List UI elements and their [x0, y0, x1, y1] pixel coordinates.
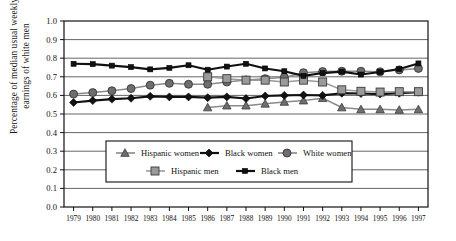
y-tick-label: 0.8	[46, 53, 57, 63]
data-point	[185, 80, 193, 88]
data-point	[204, 80, 212, 88]
y-axis-ticks: 0.00.10.20.30.40.50.60.70.80.91.0	[46, 16, 64, 212]
x-tick-label: 1996	[392, 214, 407, 223]
data-point	[376, 88, 384, 96]
data-point	[282, 69, 287, 74]
data-point	[71, 61, 76, 66]
x-tick-label: 1981	[105, 214, 120, 223]
x-tick-label: 1984	[162, 214, 177, 223]
legend-item-white-women[interactable]: White women	[278, 148, 352, 158]
data-point	[70, 98, 78, 106]
data-point	[127, 85, 135, 93]
data-point	[89, 89, 97, 97]
data-point	[416, 61, 421, 66]
data-point	[338, 86, 346, 94]
data-point	[339, 69, 344, 74]
data-point	[167, 65, 172, 70]
legend-item-hispanic-men[interactable]: Hispanic men	[146, 166, 219, 176]
x-tick-label: 1997	[411, 214, 426, 223]
x-tick-label: 1979	[66, 214, 81, 223]
data-point	[299, 91, 307, 99]
series-line	[208, 77, 419, 92]
data-point	[414, 88, 422, 96]
legend-marker	[151, 167, 159, 175]
data-point	[205, 67, 210, 72]
legend-label: White women	[303, 148, 352, 158]
data-point	[129, 65, 134, 70]
series-hispanic-men	[204, 73, 423, 96]
y-tick-label: 0.3	[46, 146, 57, 156]
data-point	[70, 90, 78, 98]
data-point	[261, 76, 269, 84]
y-tick-label: 0.1	[46, 183, 57, 193]
data-point	[165, 79, 173, 87]
legend-marker	[243, 169, 248, 174]
chart-legend: Hispanic womenBlack womenWhite womenHisp…	[106, 141, 352, 182]
x-tick-label: 1987	[220, 214, 235, 223]
data-point	[146, 92, 154, 100]
legend-label: Black men	[261, 166, 299, 176]
data-point	[357, 87, 365, 95]
data-point	[395, 88, 403, 96]
y-tick-label: 1.0	[46, 16, 57, 26]
data-point	[204, 73, 212, 81]
data-point	[358, 72, 363, 77]
data-point	[223, 75, 231, 83]
data-point	[224, 64, 229, 69]
x-tick-label: 1995	[373, 214, 388, 223]
x-tick-label: 1991	[296, 214, 311, 223]
x-tick-label: 1988	[239, 214, 254, 223]
data-point	[185, 93, 193, 101]
data-point	[108, 95, 116, 103]
data-point	[242, 76, 250, 84]
x-tick-label: 1992	[315, 214, 330, 223]
y-tick-label: 0.7	[46, 72, 57, 82]
chart-container: Percentage of median usual weekly earnin…	[0, 0, 456, 241]
y-tick-label: 0.9	[46, 35, 57, 45]
legend-label: Hispanic men	[171, 166, 219, 176]
x-tick-label: 1986	[200, 214, 215, 223]
x-tick-label: 1980	[85, 214, 100, 223]
data-point	[165, 93, 173, 101]
data-point	[320, 71, 325, 76]
series-layer	[70, 61, 423, 113]
x-tick-label: 1982	[124, 214, 139, 223]
y-tick-label: 0.0	[46, 202, 57, 212]
data-point	[223, 93, 231, 101]
x-axis-ticks: 1979198019811982198319841985198619871988…	[66, 207, 426, 223]
data-point	[263, 66, 268, 71]
x-tick-label: 1985	[181, 214, 196, 223]
x-tick-label: 1990	[277, 214, 292, 223]
data-point	[397, 66, 402, 71]
data-point	[280, 91, 288, 99]
data-point	[261, 92, 269, 100]
x-tick-label: 1983	[143, 214, 158, 223]
y-tick-label: 0.5	[46, 109, 57, 119]
x-tick-label: 1989	[258, 214, 273, 223]
data-point	[108, 87, 116, 95]
y-tick-label: 0.2	[46, 165, 57, 175]
data-point	[186, 63, 191, 68]
legend-label: Black women	[225, 148, 273, 158]
series-line	[208, 98, 419, 110]
y-tick-label: 0.4	[46, 128, 57, 138]
data-point	[148, 67, 153, 72]
data-point	[301, 73, 306, 78]
data-point	[109, 63, 114, 68]
data-point	[89, 97, 97, 105]
data-point	[319, 78, 327, 86]
y-tick-label: 0.6	[46, 90, 57, 100]
chart-svg: 0.00.10.20.30.40.50.60.70.80.91.0 197919…	[0, 0, 456, 241]
data-point	[280, 78, 288, 86]
data-point	[146, 81, 154, 89]
data-point	[244, 61, 249, 66]
legend-box	[106, 141, 352, 182]
x-tick-label: 1993	[334, 214, 349, 223]
data-point	[90, 62, 95, 67]
x-tick-label: 1994	[354, 214, 369, 223]
data-point	[204, 94, 212, 102]
legend-marker	[283, 149, 291, 157]
legend-label: Hispanic women	[141, 148, 200, 158]
data-point	[378, 69, 383, 74]
